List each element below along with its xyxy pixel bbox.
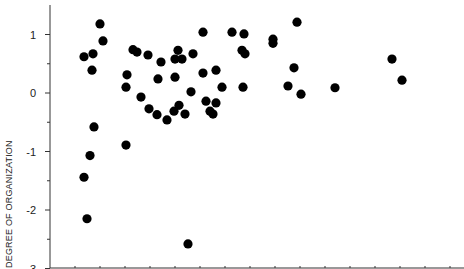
data-point: [296, 90, 305, 99]
data-point: [240, 49, 249, 58]
data-point: [238, 83, 247, 92]
data-point: [283, 81, 292, 90]
data-point: [177, 54, 186, 63]
y-tick-label: 1: [30, 29, 36, 41]
data-point: [268, 39, 277, 48]
data-point: [173, 46, 182, 55]
data-point: [183, 239, 192, 248]
data-point: [180, 109, 189, 118]
data-point: [188, 49, 197, 58]
data-point: [87, 66, 96, 75]
data-point: [153, 74, 162, 83]
data-point: [95, 19, 104, 28]
y-tick-label: -1: [26, 146, 36, 158]
data-point: [330, 83, 339, 92]
data-point: [201, 97, 210, 106]
data-point: [162, 115, 171, 124]
y-tick-label: -3: [26, 263, 36, 269]
data-point: [88, 49, 97, 58]
data-point: [121, 140, 130, 149]
data-point: [79, 52, 88, 61]
data-point: [143, 50, 152, 59]
data-point: [132, 47, 141, 56]
data-point: [136, 92, 145, 101]
data-point: [122, 70, 131, 79]
data-point: [144, 104, 153, 113]
data-point: [239, 29, 248, 38]
data-point: [98, 36, 107, 45]
data-point: [217, 83, 226, 92]
data-point: [174, 101, 183, 110]
data-point: [211, 98, 220, 107]
data-point: [227, 28, 236, 37]
data-points: [79, 18, 406, 249]
data-point: [186, 87, 195, 96]
data-point: [156, 57, 165, 66]
data-point: [152, 110, 161, 119]
scatter-chart: 10-1-2-3 DEGREE OF ORGANIZATION: [0, 0, 464, 269]
data-point: [82, 214, 91, 223]
data-point: [208, 109, 217, 118]
data-point: [121, 83, 130, 92]
data-point: [89, 122, 98, 131]
data-point: [85, 151, 94, 160]
y-tick-label: 0: [30, 87, 36, 99]
y-tick-label: -2: [26, 204, 36, 216]
data-point: [198, 69, 207, 78]
data-point: [170, 73, 179, 82]
data-point: [397, 76, 406, 85]
y-axis-label: DEGREE OF ORGANIZATION: [4, 140, 14, 268]
axes: 10-1-2-3: [26, 5, 464, 269]
data-point: [289, 63, 298, 72]
data-point: [198, 28, 207, 37]
data-point: [211, 66, 220, 75]
data-point: [292, 18, 301, 27]
data-point: [387, 54, 396, 63]
data-point: [79, 173, 88, 182]
